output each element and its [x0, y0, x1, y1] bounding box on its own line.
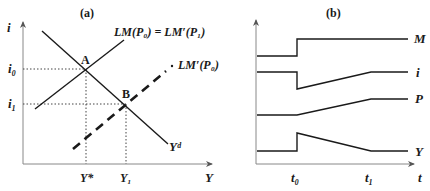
tick-y1: Y₁	[120, 171, 132, 185]
panel-a-x-axis-label: Y	[205, 170, 214, 185]
lm-curve-label: LM(P₀) = LM′(P₁)	[113, 25, 205, 39]
panel-b-title: (b)	[326, 6, 341, 20]
diagram-canvas: (a) i Y LM(P₀) = LM′(P₁) LM′(P₀) Yᵈ A B …	[0, 0, 430, 191]
panel-a-title: (a)	[80, 6, 94, 20]
tick-t0: t₀	[291, 170, 299, 185]
point-a-label: A	[81, 53, 90, 67]
series-m-label: M	[413, 31, 426, 46]
panel-b: (b) t M i P Y t₀ t₁	[256, 6, 426, 185]
lm-shifted-end-dot	[171, 65, 173, 67]
panel-a: (a) i Y LM(P₀) = LM′(P₁) LM′(P₀) Yᵈ A B …	[7, 6, 219, 185]
point-b-label: B	[122, 87, 130, 101]
series-i-line	[257, 72, 408, 89]
tick-t1: t₁	[365, 170, 373, 185]
series-y-label: Y	[415, 144, 424, 159]
demand-curve-label: Yᵈ	[169, 139, 182, 154]
series-p-label: P	[415, 91, 424, 106]
panel-a-y-axis-label: i	[7, 20, 11, 35]
lm-curve	[35, 40, 124, 109]
panel-b-x-axis-label: t	[418, 170, 422, 185]
series-i-label: i	[416, 65, 420, 80]
tick-ystar: Y*	[80, 171, 94, 185]
series-y-line	[257, 133, 408, 151]
lm-shifted-label: LM′(P₀)	[177, 58, 219, 72]
lm-shifted-curve	[73, 71, 166, 149]
series-m-line	[257, 39, 408, 56]
tick-i0: i₀	[8, 61, 16, 76]
demand-curve	[42, 31, 168, 144]
tick-i1: i₁	[8, 96, 16, 111]
series-p-line	[257, 99, 408, 115]
